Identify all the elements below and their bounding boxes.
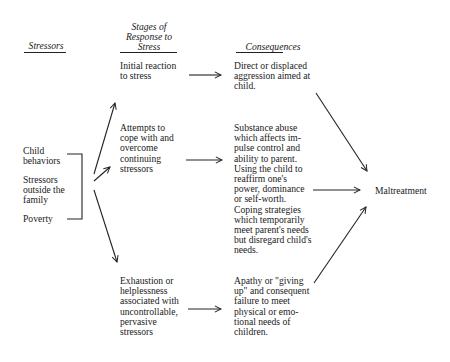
arrow-apathy-to-maltreatment [314,207,366,283]
diagram-connectors [0,0,450,362]
arrow-to-attempts-to-cope [94,167,110,181]
stressors-bracket [67,154,82,219]
arrow-to-exhaustion [94,190,117,262]
arrow-to-initial-reaction [94,103,115,174]
arrow-aggression-to-maltreatment [316,93,367,171]
